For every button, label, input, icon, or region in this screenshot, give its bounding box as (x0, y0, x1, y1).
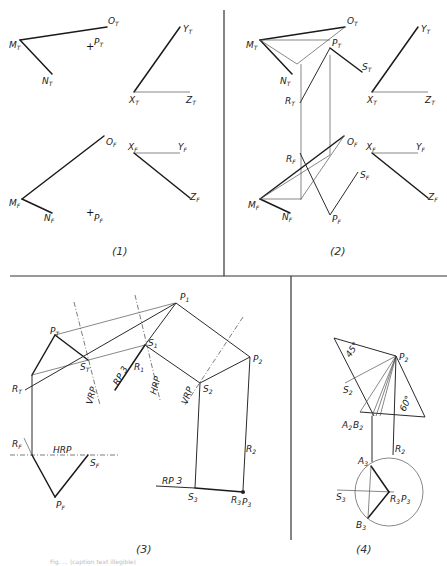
svg-text:RT: RT (285, 96, 296, 107)
svg-text:ZT: ZT (424, 95, 436, 106)
svg-text:R2: R2 (246, 444, 256, 455)
svg-text:ZF: ZF (189, 192, 200, 203)
svg-text:P2: P2 (399, 352, 408, 363)
svg-text:ZT: ZT (185, 95, 197, 106)
svg-text:S2: S2 (203, 384, 213, 395)
svg-text:MT: MT (9, 40, 22, 51)
svg-text:A3: A3 (357, 456, 368, 467)
panel-3: PT ST RT VRP RP 3 HRP S1 R1 P1 VRP S2 P2… (10, 292, 262, 556)
svg-text:ZF: ZF (427, 192, 438, 203)
svg-text:NT: NT (42, 76, 54, 87)
svg-text:RF: RF (286, 154, 296, 165)
svg-text:PF: PF (94, 213, 103, 224)
svg-text:OT: OT (347, 16, 359, 27)
panel-label-2: (2) (330, 245, 346, 258)
svg-text:XT: XT (366, 95, 378, 106)
svg-text:MT: MT (246, 40, 259, 51)
svg-text:YF: YF (416, 142, 426, 153)
svg-text:XF: XF (365, 142, 376, 153)
svg-text:P2: P2 (253, 354, 262, 365)
svg-text:OT: OT (108, 16, 120, 27)
svg-text:HRP: HRP (53, 445, 72, 455)
svg-text:RF: RF (12, 439, 22, 450)
svg-text:XT: XT (128, 95, 140, 106)
svg-text:RP 3: RP 3 (111, 364, 130, 387)
svg-text:RT: RT (12, 384, 23, 395)
panel-frames (10, 10, 447, 540)
svg-text:HRP: HRP (148, 375, 163, 396)
svg-text:NF: NF (44, 213, 55, 224)
svg-text:YT: YT (183, 24, 194, 35)
svg-text:MF: MF (9, 198, 21, 209)
panel-label-3: (3) (136, 543, 152, 556)
svg-text:ST: ST (80, 362, 91, 373)
svg-text:YF: YF (178, 142, 188, 153)
svg-text:NT: NT (280, 76, 292, 87)
svg-text:RP 3: RP 3 (162, 476, 183, 486)
svg-text:R2: R2 (395, 444, 405, 455)
svg-text:ST: ST (362, 62, 373, 73)
svg-text:OF: OF (347, 137, 358, 148)
panel-label-4: (4) (356, 543, 372, 556)
panel-4: 45° P2 S2 60° A2B2 R2 A3 S3 R3P3 B3 (4) (334, 338, 425, 556)
svg-text:S3: S3 (188, 492, 198, 503)
panel-1: OT MT NT + PT YT XT ZT OF MF NF + PF XF … (9, 16, 200, 258)
svg-text:A2B2: A2B2 (341, 420, 363, 431)
svg-text:R3P3: R3P3 (390, 494, 411, 505)
svg-text:PT: PT (332, 38, 342, 49)
svg-text:SF: SF (360, 170, 370, 181)
svg-text:60°: 60° (398, 394, 414, 413)
svg-text:XF: XF (127, 142, 138, 153)
svg-text:S2: S2 (343, 385, 353, 396)
svg-text:45°: 45° (343, 340, 360, 359)
svg-text:S1: S1 (148, 338, 158, 349)
panel-label-1: (1) (112, 245, 128, 258)
svg-text:PF: PF (56, 500, 65, 511)
svg-text:VRP: VRP (84, 385, 98, 405)
figure-caption: Fig. ... (caption text illegible) (50, 558, 136, 566)
svg-text:R3P3: R3P3 (231, 495, 252, 508)
svg-text:R1: R1 (134, 362, 144, 373)
svg-text:B3: B3 (356, 520, 366, 531)
svg-text:PT: PT (94, 37, 104, 48)
svg-text:YT: YT (421, 24, 432, 35)
svg-text:S3: S3 (336, 492, 346, 503)
svg-text:OF: OF (106, 137, 117, 148)
svg-text:SF: SF (90, 458, 100, 469)
svg-text:PF: PF (332, 214, 341, 225)
svg-text:PT: PT (50, 326, 60, 337)
panel-2: OT MT NT PT ST RT YT XT ZT OF RF SF MF N… (246, 16, 438, 258)
svg-text:MF: MF (248, 200, 260, 211)
descriptive-geometry-figure: OT MT NT + PT YT XT ZT OF MF NF + PF XF … (0, 0, 447, 566)
svg-text:VRP: VRP (179, 385, 195, 406)
svg-text:P1: P1 (180, 292, 189, 303)
svg-text:NF: NF (282, 212, 293, 223)
